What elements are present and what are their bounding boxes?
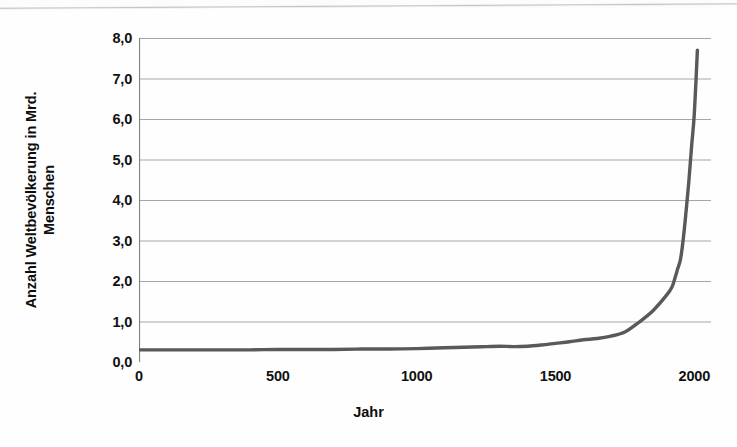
y-axis-tick-labels: 0,01,02,03,04,05,06,07,08,0 — [84, 38, 132, 362]
x-tick-label-1000: 1000 — [401, 368, 432, 384]
x-tick-label-500: 500 — [266, 368, 290, 384]
y-tick-label-0-0: 0,0 — [88, 354, 132, 370]
y-tick-label-4-0: 4,0 — [88, 192, 132, 208]
world-population-chart-figure: Anzahl Weltbevölkerung in Mrd. Menschen … — [0, 0, 737, 447]
gridlines — [139, 39, 711, 363]
y-axis-title-line-2: Menschen — [40, 92, 58, 309]
y-axis-title-line-1: Anzahl Weltbevölkerung in Mrd. — [22, 92, 40, 309]
y-tick-label-6-0: 6,0 — [88, 111, 132, 127]
x-axis-title: Jahr — [0, 404, 737, 420]
x-axis-tick-labels: 0500100015002000 — [139, 368, 711, 390]
y-tick-label-3-0: 3,0 — [88, 233, 132, 249]
plot-area — [139, 38, 711, 362]
y-tick-label-8-0: 8,0 — [88, 30, 132, 46]
x-tick-label-1500: 1500 — [540, 368, 571, 384]
x-tick-label-0: 0 — [135, 368, 143, 384]
x-tick-label-2000: 2000 — [679, 368, 710, 384]
y-axis-title: Anzahl Weltbevölkerung in Mrd. Menschen — [12, 38, 68, 362]
y-tick-label-1-0: 1,0 — [88, 314, 132, 330]
y-tick-label-2-0: 2,0 — [88, 273, 132, 289]
y-tick-label-7-0: 7,0 — [88, 71, 132, 87]
chart-svg — [139, 38, 711, 362]
y-tick-label-5-0: 5,0 — [88, 152, 132, 168]
